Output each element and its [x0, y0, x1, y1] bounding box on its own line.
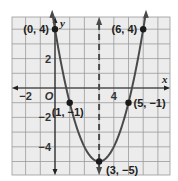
data-point-label: (1, −1)	[52, 106, 84, 118]
data-point-label: (5, −1)	[134, 97, 166, 109]
x-axis-label: x	[161, 73, 168, 85]
data-point-marker	[125, 100, 131, 106]
data-point-label: (0, 4)	[23, 23, 49, 35]
y-tick-label: −2	[38, 111, 51, 123]
x-tick-label: 4	[111, 90, 118, 102]
y-axis-label: y	[58, 17, 65, 29]
data-point-marker	[140, 26, 146, 32]
data-point-marker	[52, 26, 58, 32]
data-point-marker	[96, 158, 102, 164]
x-tick-label: O	[45, 90, 54, 102]
x-tick-label: −2	[19, 90, 32, 102]
y-tick-label: 2	[45, 53, 51, 65]
curve-arrow-left-icon	[49, 10, 55, 19]
parabola-graph: xy −2O42−2−4 (0, 4)(6, 4)(1, −1)(5, −1)(…	[0, 0, 178, 181]
data-point-label: (3, −5)	[106, 164, 138, 176]
curve-arrow-right-icon	[143, 10, 149, 19]
y-tick-label: −4	[38, 141, 51, 153]
data-point-label: (6, 4)	[112, 23, 138, 35]
